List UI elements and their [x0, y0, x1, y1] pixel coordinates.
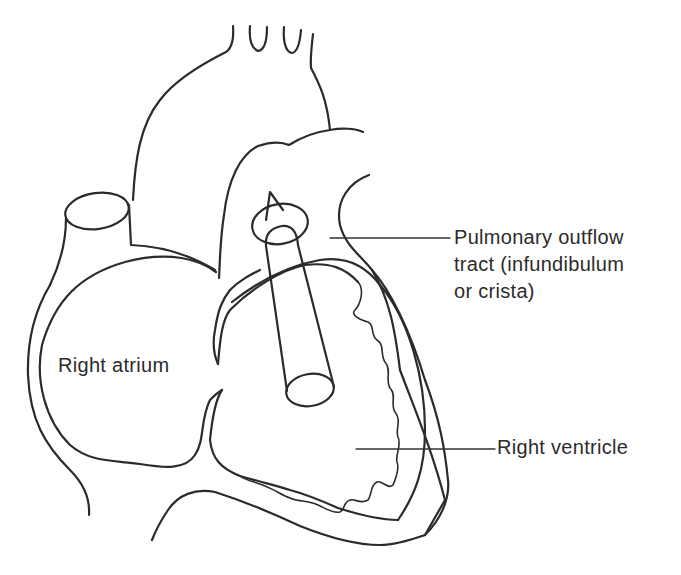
label-line-1: Pulmonary outflow — [454, 224, 624, 251]
ventricle-outer-wall — [152, 270, 448, 545]
right-atrium-outer-wall — [28, 257, 260, 515]
superior-vena-cava — [50, 189, 215, 285]
label-right-atrium: Right atrium — [58, 352, 169, 379]
probe — [249, 192, 336, 410]
aorta — [133, 26, 330, 200]
label-line-3: or crista) — [454, 278, 624, 305]
trabeculae — [240, 282, 399, 512]
label-right-ventricle: Right ventricle — [497, 434, 628, 461]
label-line-2: tract (infundibulum — [454, 251, 624, 278]
label-pulmonary-outflow-tract: Pulmonary outflow tract (infundibulum or… — [454, 224, 624, 305]
